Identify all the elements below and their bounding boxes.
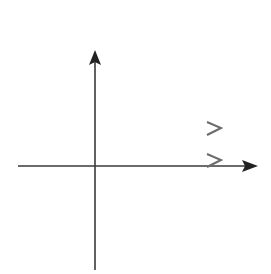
lower-arrowhead-icon [207,154,221,167]
upper-arrowhead-icon [207,122,221,135]
coordinate-plane [0,0,271,274]
